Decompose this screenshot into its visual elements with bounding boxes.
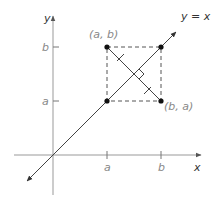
point-label-a-b: (a, b) [89,28,118,41]
x-tick-label-b: b [158,161,165,174]
reflection-diagram: y x y = x a b a b (a, b) (b, a) [0,0,213,204]
y-tick-label-b: b [42,41,49,54]
point-a-b [104,44,109,49]
y-axis-label: y [43,12,51,25]
x-axis-label: x [193,161,201,174]
point-b-a [158,98,163,103]
line-label: y = x [180,10,211,23]
point-label-b-a: (b, a) [164,100,193,113]
y-tick-label-a: a [42,95,49,108]
x-tick-label-a: a [104,161,111,174]
point-a-a [104,98,109,103]
point-b-b [158,44,163,49]
line-y-equals-x [27,32,176,181]
right-angle-marker [139,69,144,79]
